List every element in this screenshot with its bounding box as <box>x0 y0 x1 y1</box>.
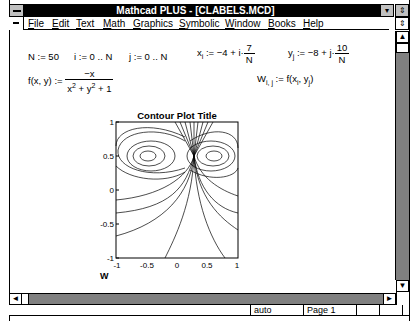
menu-help[interactable]: Help <box>303 17 324 30</box>
scroll-right-button[interactable]: ► <box>383 293 396 305</box>
fraction: 10N <box>335 42 350 65</box>
fraction: −x x2 + y2 + 1 <box>65 68 113 94</box>
menu-graphics[interactable]: Graphics <box>133 17 173 30</box>
horizontal-scrollbar[interactable] <box>9 293 395 305</box>
svg-text:0.5: 0.5 <box>103 152 115 161</box>
svg-text:-0.5: -0.5 <box>100 220 114 229</box>
title-bar[interactable]: Mathcad PLUS - [CLABELS.MCD] <box>9 4 380 17</box>
system-menu-icon <box>13 10 21 12</box>
svg-text:1: 1 <box>110 118 115 127</box>
svg-text:0: 0 <box>110 186 115 195</box>
svg-text:0: 0 <box>175 261 180 270</box>
horizontal-scroll-thumb[interactable] <box>21 293 29 305</box>
status-cell-empty-1 <box>356 305 379 316</box>
menu-text[interactable]: Text <box>76 17 94 30</box>
x-axis: -1 -0.5 0 0.5 1 <box>113 261 239 270</box>
status-page: Page 1 <box>303 305 356 316</box>
menu-window[interactable]: Window <box>225 17 261 30</box>
menu-edit[interactable]: Edit <box>52 17 69 30</box>
definition-f[interactable]: f(x, y) := −x x2 + y2 + 1 <box>28 68 113 94</box>
contour-plot[interactable]: Contour Plot Title 1 0 <box>90 108 260 283</box>
status-cell-empty-2 <box>379 305 403 316</box>
scroll-up-button[interactable]: ▲ <box>396 31 409 43</box>
menu-symbolic[interactable]: Symbolic <box>179 17 220 30</box>
svg-text:1: 1 <box>235 261 240 270</box>
svg-text:-0.5: -0.5 <box>140 261 154 270</box>
document-system-menu-button[interactable] <box>9 17 24 30</box>
definition-y[interactable]: yj := −8 + j·10N <box>288 42 349 65</box>
menu-books[interactable]: Books <box>268 17 296 30</box>
svg-text:0.5: 0.5 <box>201 261 213 270</box>
definition-W[interactable]: Wi, j := f(xi, yj) <box>257 73 313 86</box>
plot-variable-label: W <box>100 271 109 281</box>
document-menu-icon <box>13 22 19 24</box>
system-menu-button[interactable] <box>9 4 24 17</box>
vertical-scrollbar[interactable] <box>395 31 409 280</box>
restore-button[interactable]: ⇕ <box>395 4 409 17</box>
menu-math[interactable]: Math <box>103 17 125 30</box>
definition-i[interactable]: i := 0 .. N <box>74 51 112 62</box>
fraction: 7N <box>244 42 255 65</box>
scroll-down-button[interactable]: ▼ <box>396 280 409 292</box>
vertical-scroll-thumb[interactable] <box>396 43 409 53</box>
menu-file[interactable]: File <box>28 17 44 30</box>
definition-N[interactable]: N := 50 <box>28 51 59 62</box>
plot-title: Contour Plot Title <box>137 110 217 121</box>
window-title: Mathcad PLUS - [CLABELS.MCD] <box>10 5 381 16</box>
definition-j[interactable]: j := 0 .. N <box>129 51 167 62</box>
document-restore-button[interactable]: ⇕ <box>395 17 409 30</box>
definition-x[interactable]: xi := −4 + i·7N <box>197 42 255 65</box>
size-box <box>396 292 409 305</box>
svg-text:-1: -1 <box>113 261 121 270</box>
minimize-button[interactable]: ▾ <box>380 4 394 17</box>
status-mode: auto <box>250 305 303 316</box>
